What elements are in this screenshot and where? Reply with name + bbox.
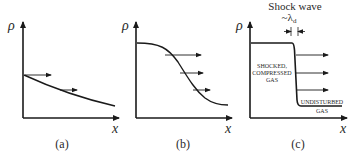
y-axis-label: ρ [121, 18, 129, 33]
panel-c: ρ x Shock wave ~λd SHOCKED, COMPRESSED G… [235, 0, 347, 151]
panel-caption: (a) [55, 137, 68, 151]
svg-text:SHOCKED,: SHOCKED, [257, 63, 287, 69]
panel-b: ρ x (b) [121, 18, 232, 151]
y-axis-label: ρ [235, 18, 243, 33]
svg-text:UNDISTURBED: UNDISTURBED [301, 99, 344, 105]
panel-a: ρ x (a) [7, 18, 119, 151]
x-axis-label: x [339, 121, 347, 136]
y-axis-label: ρ [7, 18, 15, 33]
x-axis-label: x [111, 121, 119, 136]
shock-wave-title: Shock wave [268, 0, 322, 12]
svg-text:GAS: GAS [266, 77, 278, 83]
shock-thickness-label: ~λd [282, 11, 297, 25]
svg-text:GAS: GAS [316, 108, 328, 114]
shock-wave-diagram: ρ x (a) ρ x (b) ρ x Shock wave ~λd [0, 0, 357, 153]
shocked-gas-label: SHOCKED, COMPRESSED GAS [252, 63, 292, 83]
svg-text:COMPRESSED: COMPRESSED [252, 70, 292, 76]
x-axis-label: x [224, 121, 232, 136]
panel-caption: (b) [176, 137, 190, 151]
shock-thickness-indicator [284, 27, 305, 36]
density-curve [24, 75, 115, 106]
density-curve [137, 43, 228, 105]
panel-caption: (c) [291, 137, 304, 151]
